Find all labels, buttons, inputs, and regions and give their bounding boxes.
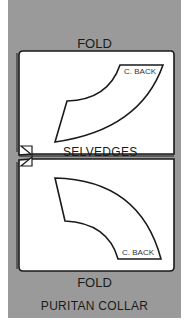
selvedges-label: SELVEDGES	[63, 145, 138, 159]
fold-label-bottom: FOLD	[8, 275, 181, 290]
piece-label-bottom: C. BACK	[122, 248, 154, 257]
diagram-title: PURITAN COLLAR	[8, 299, 181, 313]
piece-label-top: C. BACK	[124, 67, 156, 76]
